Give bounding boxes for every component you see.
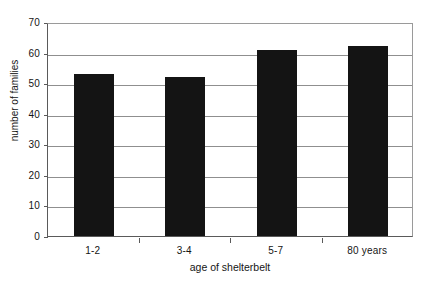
x-tick-mark-2 — [230, 238, 231, 243]
x-axis-title: age of shelterbelt — [47, 261, 413, 274]
y-tick-label-60: 60 — [0, 49, 40, 59]
x-axis-label-group: 1-23-45-780 years — [47, 245, 413, 259]
y-axis-title: number of families — [9, 41, 20, 161]
bar-5-7 — [257, 50, 297, 236]
x-tick-label-1-2: 1-2 — [48, 245, 138, 257]
y-tick-label-0: 0 — [0, 232, 40, 242]
plot-area — [47, 23, 413, 237]
bar-1-2 — [74, 74, 114, 236]
bar-3-4 — [165, 77, 205, 236]
x-tick-label-80-years: 80 years — [322, 245, 412, 257]
x-tick-label-5-7: 5-7 — [231, 245, 321, 257]
x-axis-tick-group — [47, 238, 413, 244]
y-tick-label-10: 10 — [0, 201, 40, 211]
bar-80-years — [348, 46, 388, 236]
bar-chart-figure: 010203040506070 number of families 1-23-… — [0, 0, 430, 284]
y-tick-label-40: 40 — [0, 110, 40, 120]
bars-group — [48, 24, 412, 236]
x-tick-mark-3 — [322, 238, 323, 243]
x-tick-mark-1 — [139, 238, 140, 243]
y-tick-label-50: 50 — [0, 79, 40, 89]
y-tick-label-70: 70 — [0, 18, 40, 28]
x-tick-label-3-4: 3-4 — [139, 245, 229, 257]
y-tick-label-30: 30 — [0, 140, 40, 150]
y-tick-label-20: 20 — [0, 171, 40, 181]
